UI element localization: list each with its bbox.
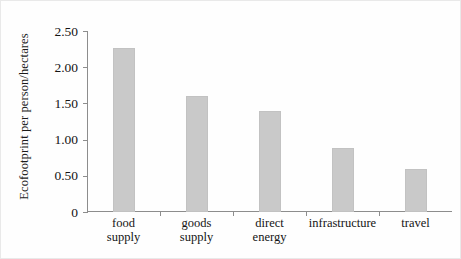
y-tick-label: 1.50: [54, 96, 78, 112]
bar: [332, 148, 354, 212]
y-axis-title: Ecofootprint per person/hectares: [17, 22, 32, 212]
y-tick: 1.00: [83, 140, 88, 141]
x-category-label: travel: [379, 217, 452, 231]
y-tick: 0: [83, 212, 88, 213]
y-tick: 1.50: [83, 103, 88, 104]
plot-area: 00.501.001.502.002.50 food supplygoods s…: [87, 31, 452, 212]
x-tick: [160, 211, 161, 216]
y-tick: 2.00: [83, 67, 88, 68]
bar: [405, 169, 427, 212]
y-tick-label: 0: [71, 205, 78, 221]
x-category-label: goods supply: [160, 217, 233, 244]
y-tick-label: 0.50: [54, 168, 78, 184]
y-tick: 2.50: [83, 31, 88, 32]
x-category-label: direct energy: [233, 217, 306, 244]
bar: [186, 96, 208, 212]
y-tick: 0.50: [83, 176, 88, 177]
y-tick-label: 1.00: [54, 132, 78, 148]
bar: [113, 48, 135, 212]
y-tick-label: 2.50: [54, 24, 78, 40]
x-tick: [306, 211, 307, 216]
x-tick: [379, 211, 380, 216]
bar: [259, 111, 281, 212]
y-tick-label: 2.00: [54, 60, 78, 76]
x-category-label: infrastructure: [306, 217, 379, 231]
x-tick: [233, 211, 234, 216]
chart-figure: Ecofootprint per person/hectares 00.501.…: [0, 0, 461, 259]
y-axis-line: [87, 31, 88, 212]
x-category-label: food supply: [87, 217, 160, 244]
